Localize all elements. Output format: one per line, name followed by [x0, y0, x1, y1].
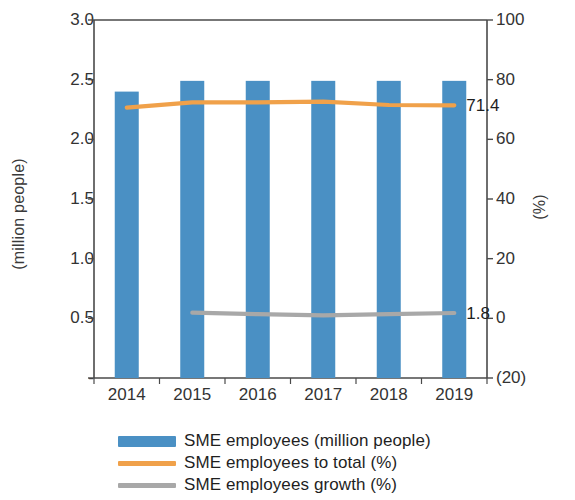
legend-item-1[interactable]: SME employees to total (%)	[118, 452, 538, 474]
chart-legend: SME employees (million people)SME employ…	[118, 430, 538, 496]
legend-swatch-line-icon	[118, 461, 176, 466]
bar-2014	[115, 92, 139, 378]
data-label-1-8: 1.8	[466, 304, 490, 324]
bar-2018	[377, 81, 401, 378]
legend-label: SME employees (million people)	[184, 431, 431, 451]
legend-item-2[interactable]: SME employees growth (%)	[118, 474, 538, 496]
legend-swatch-line-icon	[118, 483, 176, 488]
legend-label: SME employees growth (%)	[184, 475, 397, 495]
bar-2015	[180, 81, 204, 378]
bar-2016	[246, 81, 270, 378]
line-total-share	[127, 102, 455, 108]
chart-figure: (million people) (%) 3.02.52.01.51.00.5-…	[0, 0, 575, 500]
legend-item-0[interactable]: SME employees (million people)	[118, 430, 538, 452]
legend-swatch-bar-icon	[118, 436, 176, 447]
legend-label: SME employees to total (%)	[184, 453, 397, 473]
bar-2017	[311, 81, 335, 378]
bar-2019	[442, 81, 466, 378]
data-label-71-4: 71.4	[466, 96, 499, 116]
plot-area	[0, 0, 575, 500]
